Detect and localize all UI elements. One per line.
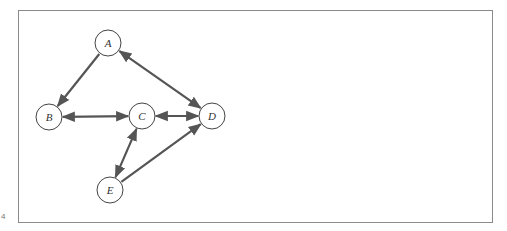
node-b: B [36, 104, 62, 130]
edge-a-b [58, 54, 100, 106]
edge-c-e [116, 129, 137, 177]
node-label: B [46, 111, 53, 123]
node-label: E [106, 184, 114, 196]
node-label: C [138, 110, 146, 122]
node-label: D [207, 110, 216, 122]
edge-a-d [119, 51, 200, 108]
edge-b-c [63, 116, 128, 117]
edge-e-d [121, 124, 200, 182]
node-a: A [95, 30, 121, 56]
node-label: A [104, 37, 112, 49]
node-c: C [129, 103, 155, 129]
graph-canvas: ABCDE [0, 0, 507, 231]
node-d: D [199, 103, 225, 129]
node-e: E [97, 177, 123, 203]
